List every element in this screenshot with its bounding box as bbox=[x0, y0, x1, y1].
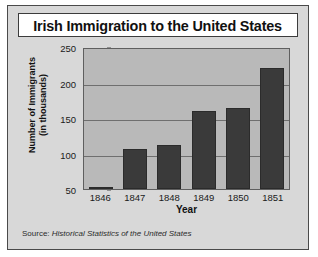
source-prefix: Source: bbox=[22, 229, 50, 238]
bar bbox=[226, 108, 250, 189]
bar bbox=[123, 149, 147, 189]
source-title: Historical Statistics of the United Stat… bbox=[52, 229, 192, 238]
source-note: Source: Historical Statistics of the Uni… bbox=[22, 229, 191, 238]
y-axis-tick-labels: 50100150200250 bbox=[48, 48, 76, 190]
x-tick-label: 1846 bbox=[85, 192, 115, 203]
y-tick-label: 200 bbox=[48, 78, 76, 89]
x-tick-label: 1848 bbox=[154, 192, 184, 203]
x-tick-label: 1849 bbox=[189, 192, 219, 203]
plot-area bbox=[83, 48, 290, 190]
x-axis-tick-labels: 184618471848184918501851 bbox=[83, 192, 290, 203]
y-tick-label: 250 bbox=[48, 43, 76, 54]
bar-series bbox=[84, 49, 289, 189]
y-axis-label: Number of Immigrants (in thousands) bbox=[27, 45, 49, 165]
y-axis-label-line2: (in thousands) bbox=[38, 74, 48, 136]
bar bbox=[260, 68, 284, 189]
chart-figure: Irish Immigration to the United States N… bbox=[7, 5, 309, 250]
y-tick-label: 150 bbox=[48, 114, 76, 125]
page-title: Irish Immigration to the United States bbox=[34, 17, 283, 34]
x-tick-label: 1847 bbox=[120, 192, 150, 203]
bar bbox=[192, 111, 216, 189]
y-tick-label: 50 bbox=[48, 185, 76, 196]
y-tick-label: 100 bbox=[48, 149, 76, 160]
y-axis-label-line1: Number of Immigrants bbox=[27, 57, 37, 153]
x-axis-label: Year bbox=[83, 204, 290, 215]
x-tick-label: 1850 bbox=[223, 192, 253, 203]
x-tick-label: 1851 bbox=[258, 192, 288, 203]
chart-title-box: Irish Immigration to the United States bbox=[18, 13, 298, 37]
bar bbox=[157, 145, 181, 189]
chart-plot-region: Number of Immigrants (in thousands) 5010… bbox=[18, 42, 298, 214]
bar bbox=[89, 187, 113, 189]
